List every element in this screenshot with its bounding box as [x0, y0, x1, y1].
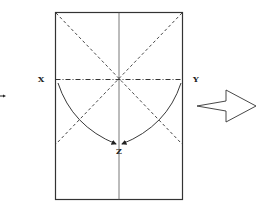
previous-step-arrow-icon — [0, 95, 6, 98]
next-step-arrow-icon — [197, 90, 256, 122]
folding-diagram — [0, 0, 273, 205]
point-label-x: X — [38, 75, 44, 83]
point-label-y: Y — [193, 75, 199, 83]
point-label-z: Z — [116, 147, 122, 155]
